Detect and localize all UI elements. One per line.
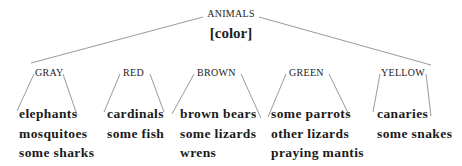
category-red-label: RED — [123, 67, 144, 78]
category-brown-label: BROWN — [197, 67, 236, 78]
list-item: some parrots — [271, 104, 364, 124]
list-item: cardinals — [107, 104, 164, 124]
list-item: some sharks — [19, 143, 94, 163]
root-node-title: ANIMALS — [0, 8, 462, 19]
category-green-items: some parrots other lizards praying manti… — [271, 104, 364, 163]
category-yellow-label: YELLOW — [381, 67, 425, 78]
category-brown-items: brown bears some lizards wrens — [180, 104, 257, 163]
list-item: mosquitoes — [19, 124, 94, 144]
category-gray-label: GRAY — [35, 67, 64, 78]
list-item: brown bears — [180, 104, 257, 124]
list-item: other lizards — [271, 124, 364, 144]
list-item: some snakes — [377, 124, 452, 144]
list-item: praying mantis — [271, 143, 364, 163]
category-green-label: GREEN — [289, 67, 324, 78]
category-gray-items: elephants mosquitoes some sharks — [19, 104, 94, 163]
list-item: canaries — [377, 104, 452, 124]
list-item: some fish — [107, 124, 164, 144]
category-yellow-items: canaries some snakes — [377, 104, 452, 143]
root-node-attribute: [color] — [0, 25, 462, 42]
category-red-items: cardinals some fish — [107, 104, 164, 143]
list-item: elephants — [19, 104, 94, 124]
list-item: some lizards — [180, 124, 257, 144]
list-item: wrens — [180, 143, 257, 163]
